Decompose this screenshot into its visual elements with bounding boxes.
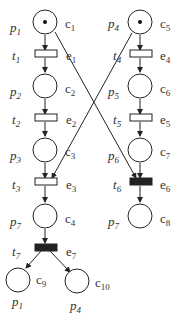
label-c7: c7 [160,144,171,161]
label-c6: c6 [160,81,171,98]
petri-net-diagram: p1 c1 t1 e1 p2 c2 t2 e2 p3 c3 t3 e3 p7 c… [0,0,181,321]
label-c5: c5 [160,16,171,33]
label-p6: p6 [107,148,120,165]
label-c3: c3 [65,144,76,161]
label-e2: e2 [66,112,76,129]
label-t2: t2 [12,112,21,129]
place-c8 [128,204,152,228]
place-c7 [128,138,152,162]
place-c4 [33,204,57,228]
label-p1: p1 [9,20,21,37]
label-p2: p2 [9,84,22,101]
transition-e2 [35,114,57,121]
label-t3: t3 [12,177,21,194]
label-p3: p3 [9,148,22,165]
label-t4: t4 [113,48,122,65]
label-e4: e4 [160,48,171,65]
label-p4-bottom: p4 [69,298,82,315]
label-e7: e7 [66,244,77,261]
label-t6: t6 [113,177,122,194]
token-c1 [43,20,47,24]
label-p7-right: p7 [107,214,120,231]
label-p4: p4 [107,16,120,33]
label-t7: t7 [12,244,21,261]
transition-e6 [130,178,152,185]
label-c1: c1 [65,16,75,33]
label-p7-left: p7 [9,214,22,231]
place-c2 [33,74,57,98]
label-e3: e3 [66,177,77,194]
label-p5: p5 [107,84,120,101]
label-c9: c9 [36,272,47,289]
label-e5: e5 [160,112,171,129]
label-e1: e1 [66,48,76,65]
transition-e3 [35,178,57,185]
label-c2: c2 [65,81,75,98]
place-c3 [33,138,57,162]
transition-e5 [130,114,152,121]
label-c8: c8 [160,211,171,228]
transition-e7 [35,244,57,251]
transition-e1 [35,50,57,57]
label-t1: t1 [12,48,20,65]
label-c10: c10 [95,275,110,292]
label-e6: e6 [160,177,171,194]
transition-e4 [130,50,152,57]
label-t5: t5 [113,112,122,129]
place-c9 [6,268,30,292]
place-c6 [128,74,152,98]
label-c4: c4 [65,211,76,228]
label-p1-bottom: p1 [11,294,23,311]
token-c5 [138,20,142,24]
place-c10 [65,269,89,293]
